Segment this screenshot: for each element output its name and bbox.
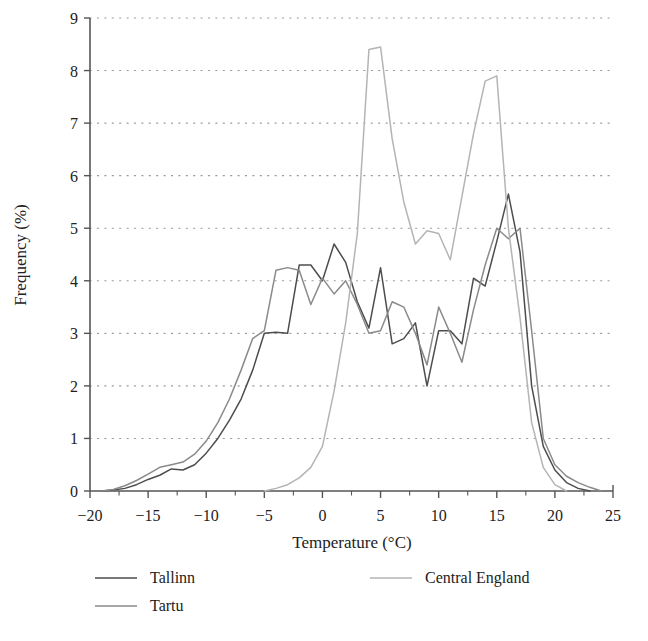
x-axis-title: Temperature (°C) [292, 533, 411, 552]
y-tick-label: 2 [70, 378, 78, 395]
y-tick-label: 5 [70, 220, 78, 237]
y-tick-label: 6 [70, 168, 78, 185]
x-tick-label: 5 [377, 507, 385, 524]
y-tick-label: 0 [70, 483, 78, 500]
x-tick-label: 0 [318, 507, 326, 524]
x-tick-label: −5 [256, 507, 273, 524]
frequency-distribution-chart: 0123456789−20−15−10−50510152025 Frequenc… [0, 0, 648, 641]
y-tick-label: 7 [70, 115, 78, 132]
legend-label-central-england: Central England [425, 569, 529, 587]
legend-label-tallinn: Tallinn [150, 569, 195, 586]
x-tick-label: −15 [136, 507, 161, 524]
y-axis-title: Frequency (%) [11, 204, 30, 306]
y-tick-label: 8 [70, 63, 78, 80]
x-tick-label: 10 [431, 507, 447, 524]
x-tick-label: 20 [547, 507, 563, 524]
chart-figure: 0123456789−20−15−10−50510152025 Frequenc… [0, 0, 648, 641]
y-tick-label: 1 [70, 430, 78, 447]
y-tick-label: 3 [70, 325, 78, 342]
y-tick-label: 9 [70, 10, 78, 27]
x-tick-label: −20 [77, 507, 102, 524]
y-tick-label: 4 [70, 273, 78, 290]
x-tick-label: −10 [194, 507, 219, 524]
x-tick-label: 15 [489, 507, 505, 524]
x-tick-label: 25 [605, 507, 621, 524]
legend-label-tartu: Tartu [150, 597, 184, 614]
